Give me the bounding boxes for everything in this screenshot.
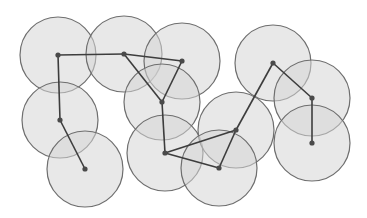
- node-L: [309, 140, 314, 145]
- unit-disk-graph-diagram: [0, 0, 367, 218]
- node-J: [270, 60, 275, 65]
- node-B: [121, 51, 126, 56]
- node-D: [159, 99, 164, 104]
- node-F: [82, 166, 87, 171]
- node-G: [162, 150, 167, 155]
- node-C: [179, 58, 184, 63]
- edge-A-B: [58, 54, 124, 55]
- node-I: [216, 165, 221, 170]
- node-E: [57, 117, 62, 122]
- disk-layer: [20, 16, 350, 207]
- node-K: [309, 95, 314, 100]
- node-A: [55, 52, 60, 57]
- node-H: [233, 127, 238, 132]
